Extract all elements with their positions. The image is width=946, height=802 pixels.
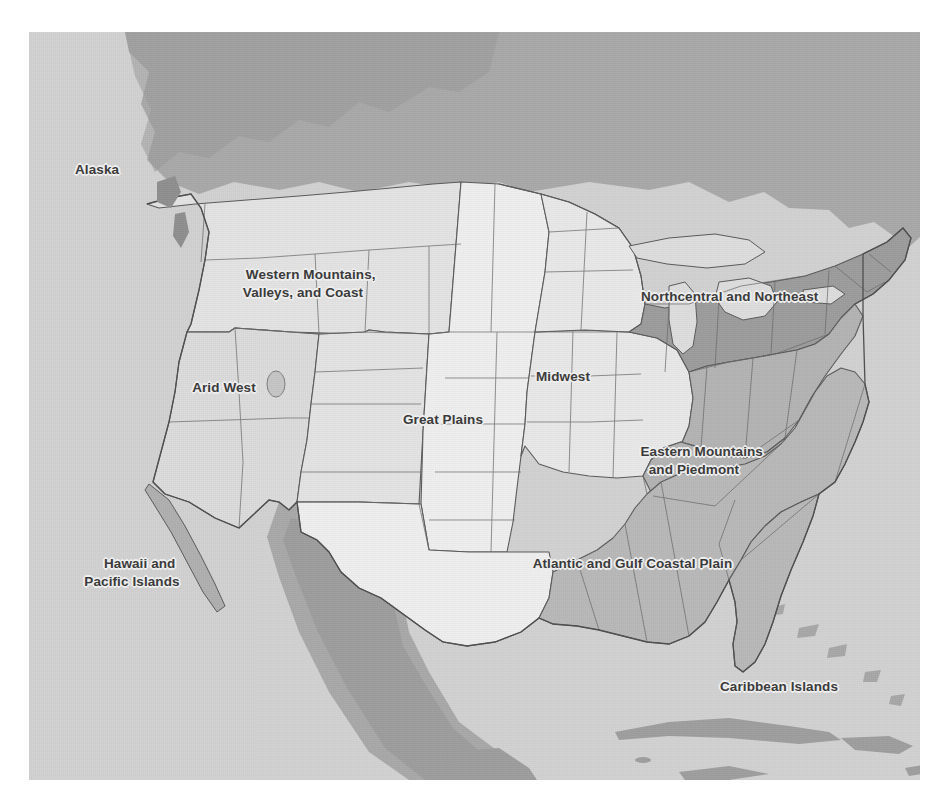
regional-map-figure: Alaska Western Mountains,Valleys, and Co… xyxy=(0,0,946,802)
region-label-hawaii-and-pacific-islands: Hawaii andPacific Islands xyxy=(72,538,192,607)
map-canvas xyxy=(29,32,920,780)
region-label-great-plains: Great Plains xyxy=(383,411,503,428)
region-label-midwest: Midwest xyxy=(518,368,608,385)
region-label-eastern-mountains-and-piedmont: Eastern Mountainsand Piedmont xyxy=(620,426,768,495)
region-label-alaska: Alaska xyxy=(75,161,119,178)
region-label-northcentral-and-northeast: Northcentral and Northeast xyxy=(612,271,832,306)
region-label-atlantic-and-gulf-coastal-plain: Atlantic and Gulf Coastal Plain xyxy=(510,538,740,573)
region-label-caribbean-islands: Caribbean Islands xyxy=(705,678,853,695)
region-label-arid-west: Arid West xyxy=(174,379,274,396)
region-label-western-mountains-valleys-and-coast: Western Mountains,Valleys, and Coast xyxy=(208,249,398,318)
map-graphic xyxy=(29,32,920,780)
